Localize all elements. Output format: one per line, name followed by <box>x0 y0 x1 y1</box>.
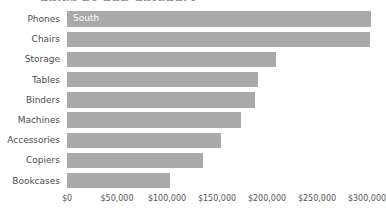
bar[interactable] <box>67 72 258 87</box>
x-axis-tick-label: $0 <box>62 193 72 205</box>
x-axis-tick-label: $50,000 <box>100 193 133 205</box>
plot-area: PhonesSouthChairsStorageTablesBindersMac… <box>0 9 377 191</box>
category-label: Machines <box>0 110 60 130</box>
bar-row: Copiers <box>0 150 377 170</box>
category-label: Tables <box>0 70 60 90</box>
bar[interactable] <box>67 153 203 168</box>
bar-track <box>67 130 377 150</box>
category-label: Storage <box>0 49 60 69</box>
bar-track <box>67 150 377 170</box>
bar[interactable] <box>67 32 370 47</box>
bar[interactable] <box>67 92 255 107</box>
bar-track <box>67 49 377 69</box>
bar-track <box>67 90 377 110</box>
bar[interactable] <box>67 52 276 67</box>
x-axis-tick-label: $300,000 <box>348 193 386 205</box>
bar[interactable] <box>67 133 221 148</box>
category-label: Phones <box>0 9 60 29</box>
bar-row: Machines <box>0 110 377 130</box>
bar-row: Storage <box>0 49 377 69</box>
x-axis-tick-label: $250,000 <box>298 193 336 205</box>
category-label: Accessories <box>0 130 60 150</box>
x-axis-tick-label: $200,000 <box>248 193 286 205</box>
bar[interactable] <box>67 173 170 188</box>
bar[interactable] <box>67 112 241 127</box>
bar-row: Accessories <box>0 130 377 150</box>
bar-track <box>67 29 377 49</box>
category-label: Copiers <box>0 150 60 170</box>
bar[interactable] <box>67 11 371 26</box>
bar-track <box>67 110 377 130</box>
chart-title: Sales by Sub-Category <box>40 0 197 1</box>
bar-track: South <box>67 9 377 29</box>
bar-row: Binders <box>0 90 377 110</box>
bar-row: PhonesSouth <box>0 9 377 29</box>
bar-track <box>67 171 377 191</box>
x-axis-tick-label: $150,000 <box>198 193 236 205</box>
x-axis: $0$50,000$100,000$150,000$200,000$250,00… <box>0 193 377 209</box>
x-axis-tick-label: $100,000 <box>148 193 186 205</box>
category-label: Binders <box>0 90 60 110</box>
bar-track <box>67 70 377 90</box>
category-label: Chairs <box>0 29 60 49</box>
bar-row: Tables <box>0 70 377 90</box>
bar-row: Chairs <box>0 29 377 49</box>
bar-row: Bookcases <box>0 171 377 191</box>
category-label: Bookcases <box>0 171 60 191</box>
